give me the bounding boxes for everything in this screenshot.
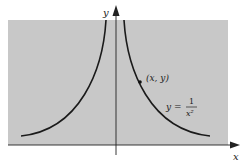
- equation-denominator: x²: [186, 109, 194, 118]
- point-label: (x, y): [146, 73, 169, 83]
- equation-numerator: 1: [189, 97, 194, 106]
- point-marker: [138, 80, 142, 84]
- x-axis-label: x: [233, 151, 239, 162]
- x-axis-arrow-icon: [230, 142, 240, 149]
- equation-lhs: y =: [165, 102, 182, 112]
- graph-y-equals-one-over-x-squared: x y (x, y) y = 1 x²: [0, 0, 245, 165]
- y-axis-arrow-icon: [113, 5, 120, 16]
- y-axis-label: y: [102, 7, 109, 18]
- plot-background: [8, 20, 228, 145]
